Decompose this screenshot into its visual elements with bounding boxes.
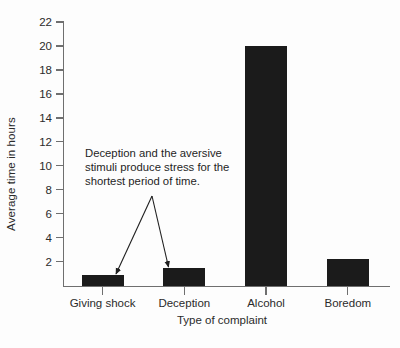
x-axis-title: Type of complaint [0,314,400,326]
x-tick [347,287,348,295]
bar-chart: Average time in hours 246810121416182022… [0,0,400,348]
y-tick [56,165,64,166]
y-tick-label: 8 [0,184,52,196]
y-tick [56,213,64,214]
y-tick [56,261,64,262]
y-tick [56,93,64,94]
y-tick-label: 12 [0,136,52,148]
annotation-arrow [152,196,169,267]
x-tick-label: Boredom [324,297,371,309]
y-tick-label: 6 [0,208,52,220]
x-tick-label: Giving shock [70,297,136,309]
y-tick-label: 4 [0,232,52,244]
y-tick [56,189,64,190]
y-tick [56,237,64,238]
bar-deception [163,268,205,286]
y-tick [56,141,64,142]
annotation-line: stimuli produce stress for the [85,160,263,174]
x-axis-title-text: Type of complaint [177,314,267,326]
y-axis-title: Average time in hours [0,0,22,348]
y-tick [56,45,64,46]
bar-giving-shock [82,275,124,286]
y-tick-label: 2 [0,256,52,268]
x-tick [184,287,185,295]
y-tick-label: 16 [0,88,52,100]
y-tick-label: 10 [0,160,52,172]
y-tick [56,117,64,118]
annotation-line: shortest period of time. [85,174,263,188]
annotation-line: Deception and the aversive [85,146,263,160]
y-tick-label: 22 [0,16,52,28]
x-axis-line [63,286,390,287]
x-tick-label: Deception [158,297,210,309]
x-tick-label: Alcohol [247,297,285,309]
y-tick-label: 20 [0,40,52,52]
x-tick [102,287,103,295]
chart-annotation: Deception and the aversivestimuli produc… [85,146,263,189]
x-tick [265,287,266,295]
bar-boredom [327,259,369,285]
y-axis-line [63,22,64,287]
y-tick-label: 18 [0,64,52,76]
y-tick [56,21,64,22]
annotation-arrow [116,196,152,274]
y-tick-label: 14 [0,112,52,124]
y-tick [56,69,64,70]
